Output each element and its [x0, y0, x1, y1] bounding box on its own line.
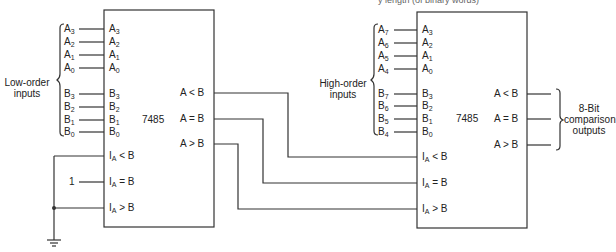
right-cascade-eq: IA = B [422, 178, 448, 188]
right-cascade-gt: IA > B [422, 204, 448, 214]
ext-input-b4: B4 [378, 127, 389, 137]
comparison-outputs-label: 8-Bitcomparisonoutputs [564, 103, 614, 136]
ext-input-a7: A7 [378, 25, 389, 35]
left-output-eq: A = B [180, 114, 204, 124]
r-pin-b2: B2 [422, 101, 433, 111]
right-chip-part-number: 7485 [456, 114, 478, 124]
ext-input-a3: A3 [64, 24, 75, 34]
ground-icon [44, 234, 64, 248]
left-output-lt: A < B [180, 88, 204, 98]
ext-input-a5: A5 [378, 51, 389, 61]
right-output-lt: A < B [494, 89, 518, 99]
r-pin-b1: B1 [422, 114, 433, 124]
ext-input-a2: A2 [64, 37, 75, 47]
pin-b1: B1 [109, 115, 120, 125]
ext-input-b1: B1 [64, 115, 75, 125]
r-pin-b0: B0 [422, 127, 433, 137]
r-pin-a0: A0 [422, 64, 433, 74]
r-pin-a3: A3 [422, 25, 433, 35]
left-output-gt: A > B [180, 139, 204, 149]
ext-input-a6: A6 [378, 38, 389, 48]
left-cascade-eq: IA = B [109, 177, 135, 187]
pin-b3: B3 [109, 89, 120, 99]
ext-input-b5: B5 [378, 114, 389, 124]
ext-input-b2: B2 [64, 102, 75, 112]
pin-a3: A3 [109, 24, 120, 34]
high-order-inputs-label: High-orderinputs [314, 78, 372, 100]
r-pin-b3: B3 [422, 89, 433, 99]
right-output-eq: A = B [494, 114, 518, 124]
ext-input-a0: A0 [64, 63, 75, 73]
pin-a1: A1 [109, 50, 120, 60]
low-order-inputs-label: Low-orderinputs [0, 77, 54, 99]
left-cascade-gt: IA > B [109, 203, 135, 213]
pin-b2: B2 [109, 102, 120, 112]
junction-dot [52, 206, 56, 210]
ext-input-a4: A4 [378, 64, 389, 74]
left-cascade-lt: IA < B [109, 151, 135, 161]
pin-b0: B0 [109, 127, 120, 137]
ext-input-b7: B7 [378, 89, 389, 99]
constant-one-input: 1 [69, 177, 75, 187]
left-chip-part-number: 7485 [142, 115, 164, 125]
r-pin-a1: A1 [422, 51, 433, 61]
ext-input-b3: B3 [64, 89, 75, 99]
ext-input-b6: B6 [378, 101, 389, 111]
ext-input-a1: A1 [64, 50, 75, 60]
ext-input-b0: B0 [64, 127, 75, 137]
r-pin-a2: A2 [422, 38, 433, 48]
right-cascade-lt: IA < B [422, 152, 448, 162]
right-output-gt: A > B [494, 140, 518, 150]
pin-a2: A2 [109, 37, 120, 47]
pin-a0: A0 [109, 63, 120, 73]
